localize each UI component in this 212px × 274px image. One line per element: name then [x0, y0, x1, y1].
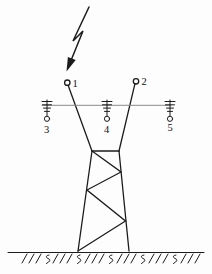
tower [78, 151, 129, 251]
ground [8, 253, 204, 264]
left-wire [68, 85, 92, 151]
lightning-arrow [67, 7, 90, 72]
right-wire [119, 84, 135, 151]
insulator-string-4: 4 [102, 100, 112, 135]
point-2-label: 2 [142, 76, 147, 87]
insulator-string-3: 3 [42, 100, 52, 135]
tower-right-leg [119, 151, 129, 251]
point-1-circle [65, 80, 70, 85]
point-3-circle [44, 116, 49, 121]
ground-hatching-squiggles [46, 255, 177, 264]
point-5-label: 5 [168, 122, 173, 133]
figure-canvas: 1 2 3 [0, 0, 212, 274]
point-5-circle [167, 116, 172, 121]
point-4-circle [104, 116, 109, 121]
strike-point-1: 1 [65, 78, 78, 89]
point-2-circle [133, 79, 138, 84]
ink-layer: 1 2 3 [8, 7, 204, 264]
point-1-label: 1 [73, 78, 78, 89]
shield-wires [68, 84, 135, 151]
strike-point-2: 2 [133, 76, 146, 87]
tower-left-leg [78, 151, 92, 251]
point-3-label: 3 [44, 124, 49, 135]
insulator-string-5: 5 [165, 100, 175, 133]
lightning-arrowhead-icon [67, 57, 76, 72]
transmission-tower-lightning-figure: 1 2 3 [0, 0, 212, 274]
lightning-bolt-line [72, 7, 89, 59]
point-4-label: 4 [104, 124, 110, 135]
